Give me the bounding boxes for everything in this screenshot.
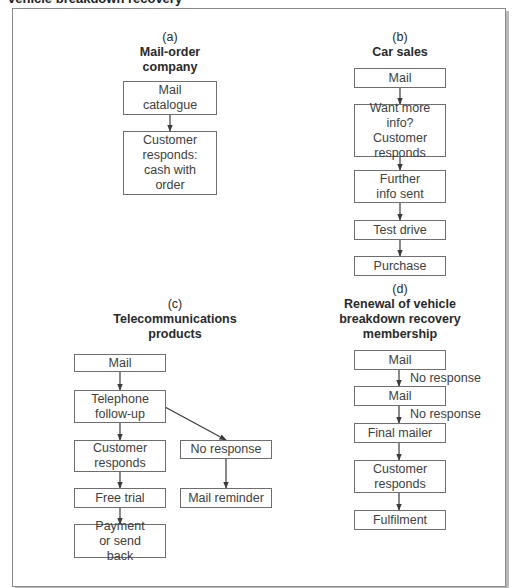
panel-c-step-free-trial: Free trial	[74, 488, 166, 508]
panel-c-label: (c)	[100, 297, 250, 312]
panel-b-step-want-more-info: Want more info? Customer responds	[354, 104, 446, 157]
panel-b-title-line-1: Car sales	[340, 45, 460, 60]
panel-c-title-line-1: Telecommunications	[100, 312, 250, 327]
panel-d-title-line-1: Renewal of vehicle	[330, 297, 470, 312]
panel-d-title-line-2: breakdown recovery	[330, 312, 470, 327]
panel-b-step-mail: Mail	[354, 68, 446, 88]
panel-b-label: (b)	[340, 30, 460, 45]
panel-c-step-payment-or-send-back: Payment or send back	[74, 524, 166, 558]
panel-c-step-telephone-follow-up: Telephone follow-up	[74, 390, 166, 423]
panel-a-label: (a)	[95, 30, 245, 45]
panel-c-branch-mail-reminder: Mail reminder	[180, 488, 272, 508]
panel-a-step-mail-catalogue: Mail catalogue	[123, 81, 217, 115]
panel-a-step-customer-responds: Customer responds: cash with order	[123, 131, 217, 195]
panel-c-title-line-2: products	[100, 327, 250, 342]
panel-c-step-customer-responds: Customer responds	[74, 440, 166, 472]
panel-d-step-fulfilment: Fulfilment	[354, 510, 446, 530]
panel-d-step-mail-2: Mail	[354, 386, 446, 406]
panel-b-step-further-info-sent: Further info sent	[354, 170, 446, 203]
panel-b-step-purchase: Purchase	[354, 256, 446, 276]
panel-a-title: (a) Mail-order company	[95, 30, 245, 75]
panel-a-title-line-2: company	[95, 60, 245, 75]
panel-c-step-mail: Mail	[74, 354, 166, 372]
panel-d-edge-label-1: No response	[410, 371, 481, 385]
panel-d-step-mail-1: Mail	[354, 350, 446, 370]
panel-b-step-test-drive: Test drive	[354, 220, 446, 240]
panel-a-title-line-1: Mail-order	[95, 45, 245, 60]
panel-c-title: (c) Telecommunications products	[100, 297, 250, 342]
panel-c-branch-no-response: No response	[180, 440, 272, 459]
panel-d-title-line-3: membership	[330, 327, 470, 342]
panel-d-label: (d)	[330, 282, 470, 297]
panel-d-step-customer-responds: Customer responds	[354, 460, 446, 493]
panel-d-step-final-mailer: Final mailer	[354, 423, 446, 443]
panel-b-title: (b) Car sales	[340, 30, 460, 60]
panel-d-title: (d) Renewal of vehicle breakdown recover…	[330, 282, 470, 342]
panel-d-edge-label-2: No response	[410, 407, 481, 421]
